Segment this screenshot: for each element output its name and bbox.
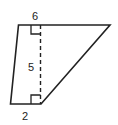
diagram-canvas: 6 5 2 [0, 0, 118, 125]
trapezoid-outline [11, 25, 111, 104]
top-base-label: 6 [32, 10, 38, 22]
right-angle-marker-top [31, 25, 41, 34]
height-label: 5 [28, 61, 34, 73]
bottom-base-label: 2 [22, 110, 28, 122]
right-angle-marker-bottom [31, 95, 41, 104]
trapezoid-figure: 6 5 2 [0, 0, 118, 125]
